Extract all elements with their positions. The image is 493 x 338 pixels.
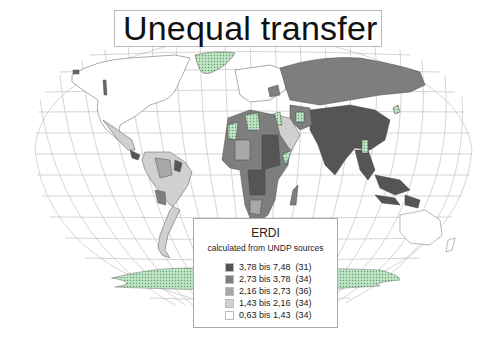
legend-count: (31) [296, 262, 312, 272]
legend-range: 2,16 bis 2,73 [239, 286, 291, 296]
legend-item: 0,63 bis 1,43 (34) [225, 309, 312, 321]
new-zealand [446, 238, 455, 252]
greenland [195, 52, 235, 74]
swatch-icon [225, 287, 234, 296]
legend-item: 1,43 bis 2,16 (34) [225, 297, 312, 309]
legend-range: 0,63 bis 1,43 [239, 310, 291, 320]
legend-range: 2,73 bis 3,78 [239, 274, 291, 284]
swatch-icon [225, 263, 234, 272]
legend-items: 3,78 bis 7,48 (31) 2,73 bis 3,78 (34) 2,… [225, 261, 312, 321]
asia [280, 57, 425, 195]
legend-count: (34) [296, 274, 312, 284]
legend-range: 1,43 bis 2,16 [239, 298, 291, 308]
north-america [72, 55, 190, 140]
swatch-icon [225, 275, 234, 284]
legend-subtitle: calculated from UNDP sources [194, 243, 337, 253]
legend-count: (34) [296, 310, 312, 320]
legend-item: 3,78 bis 7,48 (31) [225, 261, 312, 273]
australia [400, 210, 442, 245]
swatch-icon [225, 299, 234, 308]
swatch-icon [225, 311, 234, 320]
latin-america [103, 120, 192, 258]
legend: ERDI calculated from UNDP sources 3,78 b… [193, 218, 338, 328]
legend-count: (34) [296, 298, 312, 308]
legend-range: 3,78 bis 7,48 [239, 262, 291, 272]
legend-title: ERDI [194, 226, 337, 240]
indonesia [375, 195, 420, 208]
legend-item: 2,73 bis 3,78 (34) [225, 273, 312, 285]
legend-count: (36) [296, 286, 312, 296]
legend-item: 2,16 bis 2,73 (36) [225, 285, 312, 297]
title-box: Unequal transfer [114, 10, 382, 47]
map-title: Unequal transfer [123, 9, 378, 48]
